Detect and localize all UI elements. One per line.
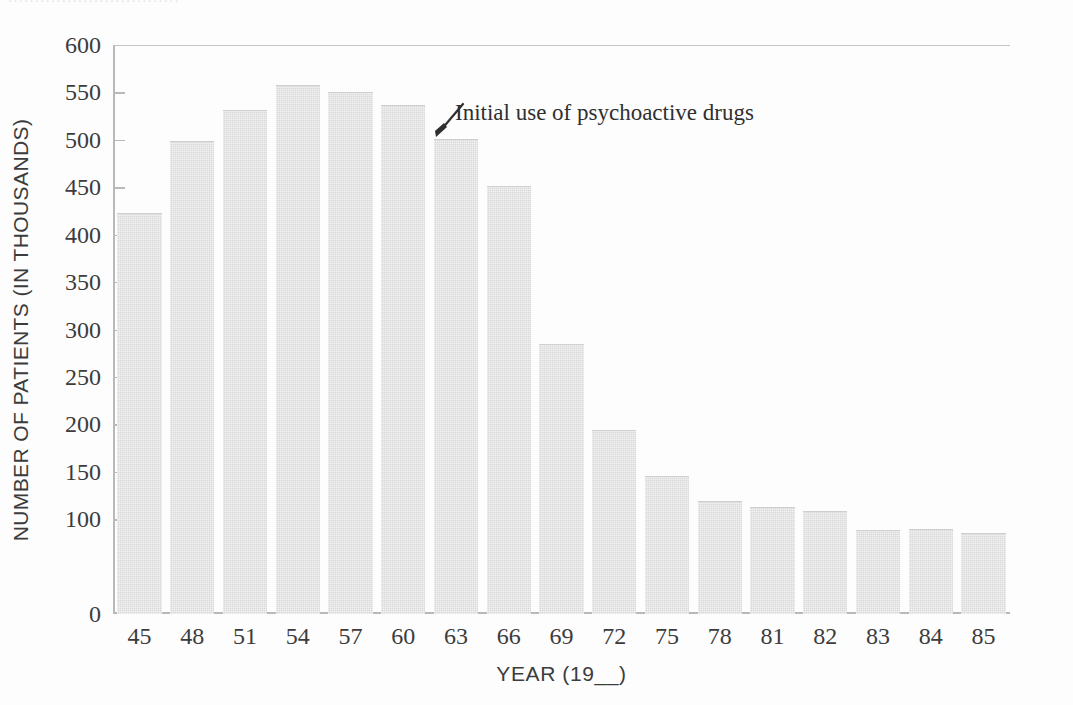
bar[interactable] <box>592 430 636 614</box>
bar[interactable] <box>117 213 161 614</box>
bar[interactable] <box>856 530 900 614</box>
y-tick-label: 150 <box>65 460 101 484</box>
bar[interactable] <box>961 533 1005 614</box>
x-tick-label: 63 <box>430 624 483 648</box>
x-tick-label: 51 <box>219 624 272 648</box>
x-tick-label: 66 <box>482 624 535 648</box>
y-axis-title-text: NUMBER OF PATIENTS (IN THOUSANDS) <box>9 118 33 541</box>
x-tick-label: 54 <box>271 624 324 648</box>
y-tick-label: 250 <box>65 365 101 389</box>
x-axis-title: YEAR (19__) <box>113 662 1010 686</box>
bar-slot: 45 <box>113 45 166 614</box>
x-tick-label: 45 <box>113 624 166 648</box>
x-tick-label: 72 <box>588 624 641 648</box>
x-tick-label: 81 <box>746 624 799 648</box>
bar[interactable] <box>170 141 214 614</box>
bar-slot: 69 <box>535 45 588 614</box>
bar[interactable] <box>223 110 267 614</box>
x-tick-label: 75 <box>641 624 694 648</box>
bar[interactable] <box>803 511 847 614</box>
bar[interactable] <box>750 507 794 614</box>
bar[interactable] <box>909 529 953 614</box>
bar[interactable] <box>539 344 583 614</box>
bar-slot: 83 <box>852 45 905 614</box>
x-tick-label: 48 <box>166 624 219 648</box>
x-tick-label: 84 <box>904 624 957 648</box>
y-tick-label: 300 <box>65 318 101 342</box>
bar-slot: 81 <box>746 45 799 614</box>
bar-slot: 54 <box>271 45 324 614</box>
partial-text-line: ................................ <box>8 0 180 5</box>
x-tick-label: 83 <box>852 624 905 648</box>
bar-slot: 60 <box>377 45 430 614</box>
bar-slot: 82 <box>799 45 852 614</box>
bar-slot: 75 <box>641 45 694 614</box>
y-tick-label: 600 <box>65 33 101 57</box>
bar[interactable] <box>487 186 531 614</box>
bar-slot: 66 <box>482 45 535 614</box>
y-tick-label: 100 <box>65 507 101 531</box>
y-tick-label: 0 <box>89 602 101 626</box>
y-tick-label: 550 <box>65 80 101 104</box>
chart-figure: ................................ NUMBER … <box>0 0 1073 705</box>
bar[interactable] <box>381 105 425 614</box>
bar[interactable] <box>434 139 478 614</box>
y-tick-label: 500 <box>65 128 101 152</box>
y-tick-label: 200 <box>65 412 101 436</box>
bar-slot: 72 <box>588 45 641 614</box>
plot-area: 0100150200250300350400450500550600 45485… <box>113 45 1010 614</box>
bar-slot: 85 <box>957 45 1010 614</box>
bar[interactable] <box>645 476 689 614</box>
y-axis-title: NUMBER OF PATIENTS (IN THOUSANDS) <box>4 45 38 614</box>
bar-slot: 63 <box>430 45 483 614</box>
x-tick-label: 57 <box>324 624 377 648</box>
x-tick-label: 69 <box>535 624 588 648</box>
bar-slot: 48 <box>166 45 219 614</box>
bar-slot: 84 <box>904 45 957 614</box>
x-tick-label: 82 <box>799 624 852 648</box>
y-tick-label: 400 <box>65 223 101 247</box>
y-tick-label: 450 <box>65 175 101 199</box>
bar[interactable] <box>328 92 372 614</box>
x-tick-label: 78 <box>693 624 746 648</box>
bar-series: 4548515457606366697275788182838485 <box>113 45 1010 614</box>
bar-slot: 57 <box>324 45 377 614</box>
page-top-partial-text: ................................ <box>0 0 1073 6</box>
y-tick-label: 350 <box>65 270 101 294</box>
bar-slot: 51 <box>219 45 272 614</box>
x-tick-label: 85 <box>957 624 1010 648</box>
x-tick-label: 60 <box>377 624 430 648</box>
bar-slot: 78 <box>693 45 746 614</box>
bar[interactable] <box>276 85 320 614</box>
bar[interactable] <box>698 501 742 614</box>
